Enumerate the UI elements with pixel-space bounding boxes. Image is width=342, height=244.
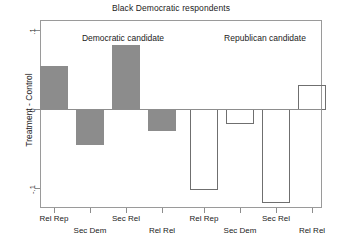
x-tick-mark-r3 <box>312 208 313 213</box>
panel-label-republican: Republican candidate <box>200 33 330 43</box>
x-tick-label-r1: Sec Dem <box>217 226 263 235</box>
y-tick-label-zero: 0 <box>28 101 37 121</box>
x-tick-label-l0: Rel Rep <box>31 214 77 223</box>
x-tick-mark-r1 <box>240 208 241 213</box>
bar-dem-rel-rep <box>40 66 68 110</box>
zero-baseline <box>40 109 322 110</box>
x-tick-mark-l1 <box>90 208 91 213</box>
x-tick-label-l2: Sec Rel <box>103 214 149 223</box>
chart-title: Black Democratic respondents <box>0 3 342 13</box>
panel-label-democratic: Democratic candidate <box>58 33 188 43</box>
bar-dem-sec-dem <box>76 109 104 145</box>
x-tick-label-l1: Sec Dem <box>67 226 113 235</box>
x-tick-label-r3: Rel Rel <box>289 226 335 235</box>
bar-dem-rel-rel <box>148 109 176 131</box>
x-tick-mark-l3 <box>162 208 163 213</box>
chart-figure: Black Democratic respondents Treatment -… <box>0 0 342 244</box>
x-tick-mark-r0 <box>204 208 205 213</box>
x-tick-label-r0: Rel Rep <box>181 214 227 223</box>
bar-rep-rel-rep <box>190 109 218 190</box>
bar-rep-rel-rel <box>298 85 326 110</box>
x-tick-label-l3: Rel Rel <box>139 226 185 235</box>
x-tick-mark-r2 <box>276 208 277 213</box>
y-tick-label-top: .1 <box>28 22 37 42</box>
bar-rep-sec-rel <box>262 109 290 203</box>
x-tick-mark-l2 <box>126 208 127 213</box>
x-tick-label-r2: Sec Rel <box>253 214 299 223</box>
bar-dem-sec-rel <box>112 45 140 110</box>
x-tick-mark-l0 <box>54 208 55 213</box>
y-tick-label-bottom: -.1 <box>28 180 37 200</box>
bar-rep-sec-dem <box>226 109 254 124</box>
